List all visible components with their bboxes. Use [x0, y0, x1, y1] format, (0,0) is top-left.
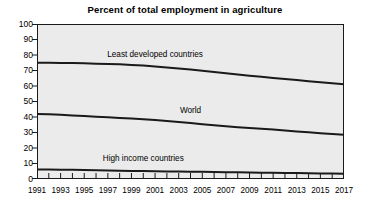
y-tick-label: 100 — [7, 20, 33, 29]
x-axis-tick-labels: 1991199319951997199920012003200520072009… — [37, 186, 344, 202]
x-tick-label: 2013 — [288, 186, 306, 195]
y-tick-label: 40 — [7, 113, 33, 122]
x-tick-label: 2001 — [146, 186, 164, 195]
x-tick-label: 2015 — [311, 186, 329, 195]
y-tick-label: 80 — [7, 51, 33, 60]
chart-title: Percent of total employment in agricultu… — [0, 4, 370, 15]
x-tick-label: 1991 — [28, 186, 46, 195]
y-tick-label: 90 — [7, 35, 33, 44]
y-axis-tick-labels: 1009080706050403020100 — [3, 24, 33, 179]
y-tick-label: 50 — [7, 97, 33, 106]
x-tick-label: 1997 — [99, 186, 117, 195]
y-tick-label: 70 — [7, 66, 33, 75]
y-tick-label: 0 — [7, 175, 33, 184]
series-line — [37, 114, 344, 135]
x-tick-label: 1999 — [122, 186, 140, 195]
y-tick-label: 10 — [7, 159, 33, 168]
series-line — [37, 63, 344, 84]
x-tick-label: 1995 — [75, 186, 93, 195]
plot-region — [37, 24, 344, 179]
x-tick-label: 1993 — [52, 186, 70, 195]
y-tick-label: 30 — [7, 128, 33, 137]
x-tick-label: 2003 — [170, 186, 188, 195]
chart-lines — [37, 24, 344, 179]
x-tick-label: 2005 — [193, 186, 211, 195]
x-tick-label: 2017 — [335, 186, 353, 195]
y-tick-label: 60 — [7, 82, 33, 91]
x-tick-label: 2007 — [217, 186, 235, 195]
x-tick-label: 2011 — [264, 186, 282, 195]
x-tick-label: 2009 — [240, 186, 258, 195]
y-tick-label: 20 — [7, 144, 33, 153]
chart-container: Percent of total employment in agricultu… — [0, 0, 370, 215]
